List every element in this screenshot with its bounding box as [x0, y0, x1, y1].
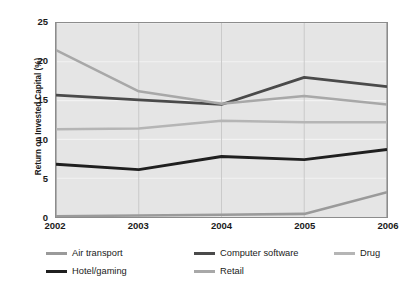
x-tick-label: 2005 — [294, 220, 315, 231]
legend-swatch-icon — [194, 270, 215, 273]
x-tick-label: 2006 — [377, 220, 398, 231]
y-tick-label: 5 — [26, 174, 48, 184]
x-tick-label: 2003 — [128, 220, 149, 231]
x-tick-label: 2004 — [211, 220, 232, 231]
legend-item-retail[interactable]: Retail — [194, 267, 244, 276]
plot-area — [55, 22, 388, 218]
line-chart-figure: Return on Invested Capital (%) 051015202… — [0, 0, 404, 297]
y-tick-label: 15 — [26, 95, 48, 105]
plot-svg — [56, 23, 387, 217]
legend-item-hotel-gaming[interactable]: Hotel/gaming — [46, 267, 127, 276]
y-tick-label: 25 — [26, 17, 48, 27]
legend-item-drug[interactable]: Drug — [334, 249, 380, 258]
y-axis-tick-labels: 0510152025 — [24, 0, 48, 297]
legend-item-computer-software[interactable]: Computer software — [194, 249, 299, 258]
legend-swatch-icon — [194, 252, 215, 255]
legend-label: Retail — [220, 267, 244, 276]
y-tick-label: 10 — [26, 135, 48, 145]
x-axis-tick-labels: 20022003200420052006 — [55, 220, 388, 236]
legend-swatch-icon — [46, 252, 67, 255]
legend-label: Computer software — [220, 249, 299, 258]
legend-label: Hotel/gaming — [72, 267, 127, 276]
legend-label: Air transport — [72, 249, 123, 258]
legend-swatch-icon — [334, 252, 355, 255]
chart-legend: Air transportComputer softwareDrugHotel/… — [46, 249, 386, 289]
legend-item-air-transport[interactable]: Air transport — [46, 249, 123, 258]
y-tick-label: 20 — [26, 56, 48, 66]
x-tick-label: 2002 — [44, 220, 65, 231]
legend-swatch-icon — [46, 270, 67, 273]
legend-label: Drug — [360, 249, 380, 258]
